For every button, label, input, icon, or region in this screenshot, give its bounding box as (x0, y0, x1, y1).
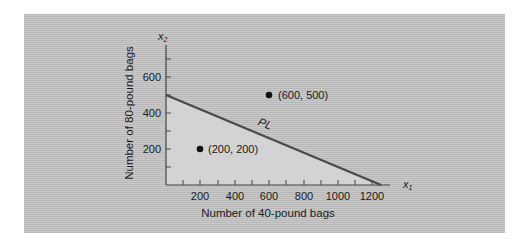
data-point (197, 146, 204, 153)
x-tick-label: 200 (191, 190, 209, 202)
chart-svg: 200 400 600 800 1000 1200 200 400 600 PL… (0, 0, 524, 252)
y-tick-label: 200 (143, 143, 161, 155)
y-axis-symbol: x2 (157, 30, 168, 43)
x-tick-label: 1000 (326, 190, 350, 202)
x-axis-title: Number of 40-pound bags (201, 207, 335, 219)
point-label: (600, 500) (278, 89, 328, 101)
x-axis-symbol: x1 (402, 178, 413, 191)
y-tick-label: 400 (143, 107, 161, 119)
data-point (266, 92, 273, 99)
point-label: (200, 200) (208, 143, 258, 155)
x-tick-label: 400 (226, 190, 244, 202)
x-tick-label: 800 (295, 190, 313, 202)
x-tick-label: 1200 (360, 190, 384, 202)
pl-line-label: PL (256, 115, 274, 131)
y-axis-title: Number of 80-pound bags (123, 46, 135, 180)
y-tick-label: 600 (143, 71, 161, 83)
x-tick-label: 600 (260, 190, 278, 202)
